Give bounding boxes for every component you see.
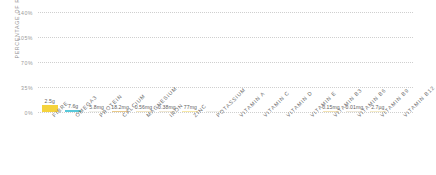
y-axis-tick-label: 35%	[21, 85, 33, 91]
bar-slot[interactable]: 7.6g	[61, 12, 84, 112]
bar-slot[interactable]: 77mg	[179, 12, 202, 112]
bar-value-label: 2.5g	[45, 98, 55, 104]
x-axis-labels: FIBREOMEGA3PROTEINCALCIUMMAGNESIUMIRONZI…	[38, 114, 413, 174]
y-axis-tick-label: 105%	[18, 35, 33, 41]
y-axis-tick-label: 140%	[18, 10, 33, 16]
y-axis-tick-label: 70%	[21, 60, 33, 66]
bar-slot[interactable]: 2.5g	[38, 12, 61, 112]
bar-slot[interactable]	[202, 12, 225, 112]
bar-value-label: 77mg	[184, 104, 197, 110]
y-axis-tick-label: 0%	[25, 110, 34, 116]
